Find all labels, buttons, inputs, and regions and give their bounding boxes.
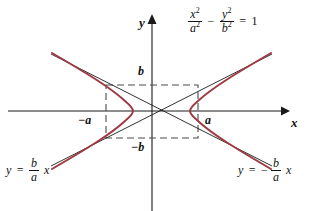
- asymptote-label-left: y = b a x: [6, 157, 49, 186]
- tick-label-a: a: [205, 114, 211, 126]
- asymptote-right-sign: −: [261, 163, 268, 177]
- asymptote-label-right: y = − b a x: [238, 157, 291, 186]
- x-axis-label: x: [291, 116, 298, 129]
- tick-label-negative-a: −a: [78, 114, 91, 126]
- y-axis: [148, 14, 157, 211]
- equation-term-x: x2 a2: [188, 8, 202, 37]
- tick-label-negative-b: −b: [131, 141, 144, 153]
- asymptote-left-y: y: [6, 163, 11, 177]
- tick-label-b: b: [138, 65, 144, 77]
- asymptote-left-slope: b a: [29, 157, 39, 186]
- hyperbola-equation: x2 a2 − y2 b2 = 1: [188, 8, 258, 37]
- y-axis-label: y: [139, 16, 145, 29]
- asymptote-left-equals: =: [14, 163, 26, 177]
- asymptote-right-y: y: [238, 163, 243, 177]
- asymptote-left-variable: x: [42, 163, 49, 177]
- asymptote-right-variable: x: [284, 163, 291, 177]
- equation-term-y: y2 b2: [220, 8, 234, 37]
- equation-minus-operator: −: [205, 14, 217, 28]
- equation-equals-sign: =: [237, 14, 249, 28]
- hyperbola-figure: x2 a2 − y2 b2 = 1 y x b −b −a a y = b a …: [0, 0, 327, 211]
- asymptote-right-equals: =: [246, 163, 258, 177]
- equation-right-hand-side: 1: [252, 14, 258, 28]
- x-axis: [8, 107, 290, 116]
- asymptote-right-slope: b a: [271, 157, 281, 186]
